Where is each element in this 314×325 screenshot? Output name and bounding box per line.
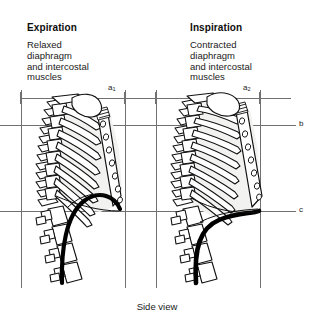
axis-label-c: c [299, 205, 303, 214]
axis-label-a1-subscript: 1 [112, 86, 115, 92]
figure-caption: Side view [0, 301, 314, 312]
axis-label-a2: a2 [243, 83, 251, 92]
axis-label-a2-subscript: 2 [247, 86, 250, 92]
axis-label-a1: a1 [108, 83, 116, 92]
respiration-side-view-figure: Expiration Relaxed diaphragm and interco… [0, 0, 314, 325]
lumbar-vertebrae-expiration [36, 206, 82, 283]
thorax-diagram-artwork [0, 0, 314, 325]
thorax-expiration [36, 94, 123, 283]
thorax-inspiration [171, 93, 262, 283]
axis-label-b: b [299, 119, 303, 128]
